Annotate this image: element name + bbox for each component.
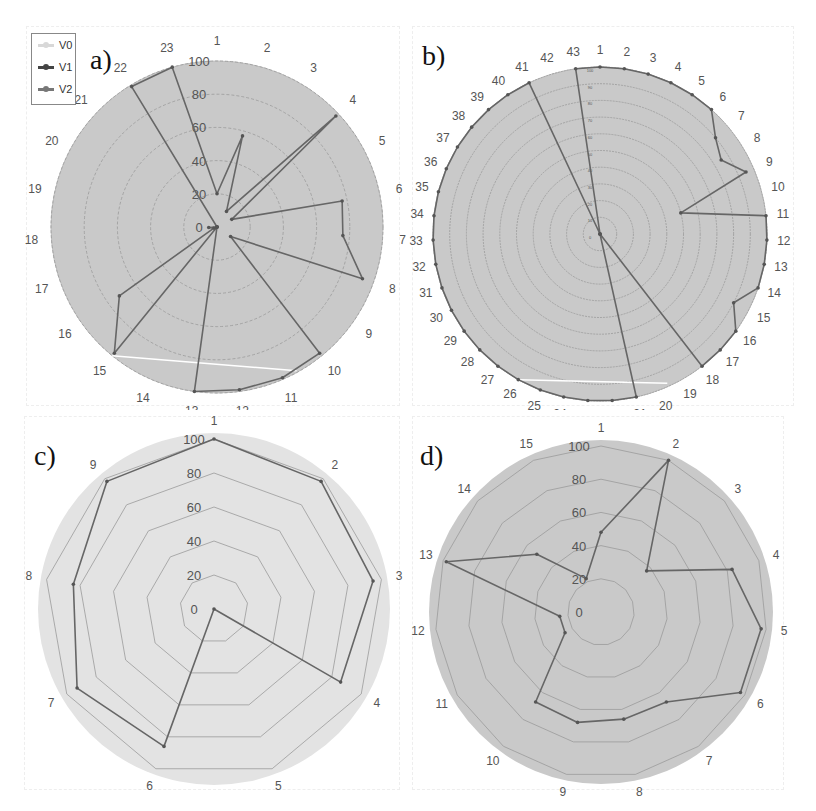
category-label: 11 xyxy=(285,391,298,405)
legend-marker-icon xyxy=(38,88,54,91)
data-point-marker xyxy=(622,717,626,721)
category-label: 3 xyxy=(650,51,657,65)
data-point-marker xyxy=(225,210,229,214)
radial-tick-label: 80 xyxy=(187,466,201,481)
data-point-marker xyxy=(732,301,736,305)
data-point-marker xyxy=(739,691,743,695)
data-point-marker xyxy=(496,364,500,368)
category-label: 2 xyxy=(264,41,271,55)
category-label: 3 xyxy=(396,569,403,583)
data-point-marker xyxy=(445,167,449,171)
data-point-marker xyxy=(598,232,602,236)
data-point-marker xyxy=(562,395,566,399)
category-label: 26 xyxy=(503,387,517,401)
radial-tick-label: 40 xyxy=(572,539,586,554)
category-label: 8 xyxy=(754,131,761,145)
data-point-marker xyxy=(635,395,639,399)
data-point-marker xyxy=(113,351,117,355)
category-label: 12 xyxy=(411,624,425,638)
category-label: 14 xyxy=(136,391,150,405)
data-point-marker xyxy=(456,145,460,149)
data-point-marker xyxy=(714,136,718,140)
data-point-marker xyxy=(762,263,766,267)
data-point-marker xyxy=(341,234,345,238)
data-point-marker xyxy=(719,158,723,162)
category-label: 6 xyxy=(719,90,726,104)
data-point-marker xyxy=(584,577,588,581)
data-point-marker xyxy=(462,329,466,333)
category-label: 14 xyxy=(767,286,781,300)
category-label: 5 xyxy=(275,779,282,793)
radial-tick-label: 80 xyxy=(572,472,586,487)
category-label: 10 xyxy=(328,364,342,378)
data-point-marker xyxy=(432,214,436,218)
category-label: 21 xyxy=(74,93,88,107)
category-label: 28 xyxy=(461,355,475,369)
data-point-marker xyxy=(487,108,491,112)
category-label: 6 xyxy=(146,779,153,793)
radar-chart-b: 0102030405060708090100123456789101112131… xyxy=(408,0,816,410)
radial-tick-label: 40 xyxy=(187,534,201,549)
category-label: 15 xyxy=(93,364,107,378)
category-label: 6 xyxy=(757,697,764,711)
data-point-marker xyxy=(527,81,531,85)
data-point-marker xyxy=(207,226,211,230)
radial-tick-label: 0 xyxy=(575,605,582,620)
category-label: 27 xyxy=(481,373,495,387)
radial-tick-label: 90 xyxy=(588,85,593,90)
category-label: 39 xyxy=(471,90,485,104)
radial-tick-label: 80 xyxy=(192,87,206,102)
data-point-marker xyxy=(130,85,134,89)
data-point-marker xyxy=(319,480,323,484)
category-label: 20 xyxy=(659,399,673,410)
data-point-marker xyxy=(534,700,538,704)
data-point-marker xyxy=(645,569,649,573)
data-point-marker xyxy=(574,67,578,71)
category-label: 1 xyxy=(214,34,221,48)
category-label: 18 xyxy=(706,373,720,387)
legend-label: V1 xyxy=(59,61,72,73)
data-point-marker xyxy=(238,388,242,392)
category-label: 7 xyxy=(738,109,745,123)
radial-tick-label: 20 xyxy=(572,572,586,587)
category-label: 16 xyxy=(58,327,72,341)
data-point-marker xyxy=(450,309,454,313)
category-label: 2 xyxy=(672,437,679,451)
data-point-marker xyxy=(734,329,738,333)
data-point-marker xyxy=(118,294,122,298)
category-label: 25 xyxy=(528,399,542,410)
data-point-marker xyxy=(318,351,322,355)
category-label: 1 xyxy=(598,421,605,435)
category-label: 6 xyxy=(396,182,403,196)
data-point-marker xyxy=(665,700,669,704)
panel-label-c: c) xyxy=(34,440,56,472)
category-label: 37 xyxy=(436,131,450,145)
legend-item-v2: V2 xyxy=(32,78,75,100)
data-point-marker xyxy=(506,93,510,97)
data-point-marker xyxy=(535,552,539,556)
data-point-marker xyxy=(212,437,216,441)
category-label: 19 xyxy=(28,182,42,196)
category-label: 9 xyxy=(766,155,773,169)
category-label: 3 xyxy=(310,61,317,75)
data-point-marker xyxy=(371,579,375,583)
radial-tick-label: 100 xyxy=(587,68,594,73)
radial-tick-label: 70 xyxy=(588,118,593,123)
category-label: 35 xyxy=(415,180,429,194)
radial-tick-label: 100 xyxy=(188,54,210,69)
category-label: 22 xyxy=(114,61,128,75)
data-point-marker xyxy=(105,480,109,484)
category-label: 10 xyxy=(771,180,785,194)
data-point-marker xyxy=(563,631,567,635)
data-point-marker xyxy=(229,235,233,239)
data-point-marker xyxy=(212,607,216,611)
category-label: 14 xyxy=(458,482,472,496)
radar-chart-c: 020406080100123456789 c) xyxy=(0,410,408,811)
radial-tick-label: 80 xyxy=(588,101,593,106)
radial-tick-label: 0 xyxy=(195,220,202,235)
category-label: 34 xyxy=(410,207,424,221)
category-label: 1 xyxy=(211,414,218,428)
category-label: 5 xyxy=(379,134,386,148)
data-point-marker xyxy=(765,238,769,242)
radial-tick-label: 60 xyxy=(572,505,586,520)
